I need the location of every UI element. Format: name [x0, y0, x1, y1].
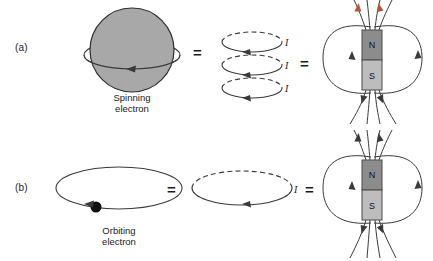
bar-magnet-figure-b: N S: [0, 0, 433, 261]
field-arrow-bot-left-b: [358, 224, 368, 235]
field-line-top-mid-b: [367, 130, 370, 160]
north-pole-label-b: N: [369, 170, 376, 180]
south-pole-label-b: S: [369, 201, 375, 211]
field-line-bot-mid-b: [367, 220, 370, 258]
figure-canvas: (a) Spinning electron = I I I =: [0, 0, 433, 261]
field-line-bot-midright-b: [375, 220, 380, 258]
field-arrow-left-b: [349, 181, 356, 190]
field-arrow-right-b: [415, 180, 422, 189]
